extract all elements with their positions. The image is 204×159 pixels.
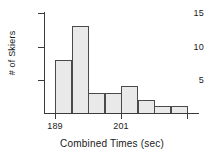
y-axis-tick-15: [38, 13, 44, 14]
histogram-bar: [55, 60, 72, 113]
histogram-bar: [171, 106, 188, 113]
y-axis-title: # of Skiers: [7, 13, 17, 93]
y-axis-tick-label-10: 10: [170, 43, 204, 52]
y-axis-line: [44, 12, 45, 114]
histogram-bar: [121, 86, 138, 113]
x-axis-tick-end: [187, 113, 188, 119]
y-axis-tick-5: [38, 80, 44, 81]
histogram-figure: 15 10 5 189 201 # of Skiers Combined Tim…: [0, 0, 204, 159]
y-axis-tick-label-15: 15: [170, 9, 204, 18]
histogram-bar: [72, 26, 89, 113]
histogram-bar: [138, 100, 155, 113]
x-axis-tick-label-201: 201: [106, 121, 136, 131]
histogram-bar: [105, 93, 122, 113]
y-axis-tick-label-5: 5: [170, 76, 204, 85]
histogram-bar: [154, 106, 171, 113]
x-axis-tick-201: [121, 113, 122, 119]
plot-area: 15 10 5 189 201 # of Skiers Combined Tim…: [0, 0, 204, 159]
x-axis-title: Combined Times (sec): [22, 138, 202, 149]
histogram-bar: [88, 93, 105, 113]
x-axis-tick-189: [55, 113, 56, 119]
x-axis-tick-label-189: 189: [40, 121, 70, 131]
y-axis-tick-10: [38, 47, 44, 48]
